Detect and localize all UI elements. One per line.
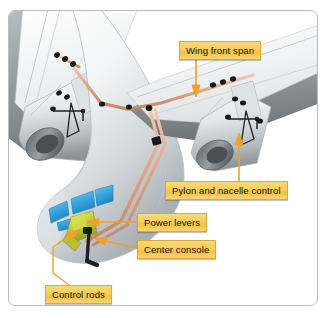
callout-center-console[interactable]: Center console xyxy=(137,240,216,259)
callout-wing-front-span[interactable]: Wing front span xyxy=(179,41,261,60)
aircraft-linkage-figure: Wing front span Pylon and nacelle contro… xyxy=(0,0,332,318)
callout-control-rods[interactable]: Control rods xyxy=(45,285,112,304)
callout-pylon-and-nacelle-control[interactable]: Pylon and nacelle control xyxy=(165,181,288,200)
callout-power-levers[interactable]: Power levers xyxy=(137,213,207,232)
figure-frame: Wing front span Pylon and nacelle contro… xyxy=(8,10,318,306)
aircraft-illustration xyxy=(9,11,318,306)
